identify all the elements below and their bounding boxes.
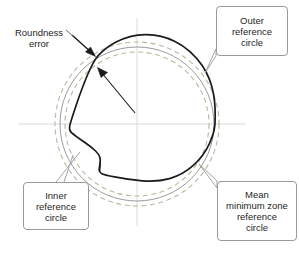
outer-label-line-1: Outer <box>240 15 264 26</box>
outer-label-line-3: circle <box>241 37 263 48</box>
leader-inner-reference-circle <box>56 152 80 182</box>
callout-outer-reference-circle[interactable]: Outer reference circle <box>216 6 288 56</box>
leader-mean-reference-circle <box>199 164 217 188</box>
inner-zone-arrow <box>98 68 136 114</box>
profile-notch <box>99 164 100 171</box>
inner-label-line-2: reference <box>36 201 76 212</box>
roundness-error-arrow <box>72 35 96 57</box>
mean-label-line-2: minimum zone <box>226 200 288 211</box>
roundness-error-line-1: Roundness <box>15 27 63 38</box>
mean-label-line-4: circle <box>246 222 268 233</box>
inner-label-line-1: Inner <box>45 190 67 201</box>
diagram-canvas: Roundness error Outer reference circle M… <box>0 0 299 259</box>
roundness-error-line-2: error <box>29 38 49 49</box>
mean-label-line-1: Mean <box>245 189 269 200</box>
callout-inner-reference-circle[interactable]: Inner reference circle <box>23 182 89 230</box>
mean-label-line-3: reference <box>237 211 277 222</box>
outer-label-line-2: reference <box>232 26 272 37</box>
roundness-error-label: Roundness error <box>8 27 70 49</box>
measured-roundness-profile <box>69 35 215 181</box>
leader-outer-reference-circle <box>205 49 216 73</box>
callout-mean-minimum-zone-reference-circle[interactable]: Mean minimum zone reference circle <box>217 181 297 241</box>
inner-label-line-3: circle <box>45 212 67 223</box>
